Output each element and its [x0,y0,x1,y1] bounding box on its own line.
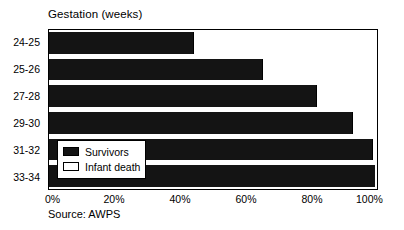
legend-swatch-icon [63,162,79,171]
y-axis-label: 25-26 [0,56,44,83]
x-axis: 0%20%40%60%80%100% [48,191,378,207]
x-axis-tick-label: 40% [169,193,190,205]
bar-stack [49,112,377,134]
legend-label: Survivors [85,146,129,158]
y-axis-category-labels: 24-2525-2627-2829-3031-3233-34 [0,29,44,190]
legend-label: Infant death [85,161,140,173]
x-axis-tick-label: 20% [103,193,124,205]
bar-stack [49,32,377,54]
bar-segment-survivors [49,59,262,81]
bar-segment-infant-death [352,112,377,134]
source-note: Source: AWPS [48,208,120,220]
bar-segment-infant-death [316,85,377,107]
y-axis-label: 24-25 [0,29,44,56]
chart-legend: SurvivorsInfant death [57,140,146,179]
y-axis-label: 31-32 [0,136,44,163]
chart-container: Gestation (weeks) 24-2525-2627-2829-3031… [0,0,404,230]
y-axis-label: 27-28 [0,83,44,110]
bar-stack [49,85,377,107]
bar-row [49,110,377,137]
bar-segment-infant-death [375,165,377,187]
x-axis-tick-label: 80% [301,193,322,205]
bar-row [49,57,377,84]
x-axis-tick-label: 0% [45,193,60,205]
x-axis-tick-label: 100% [356,193,383,205]
bar-segment-survivors [49,85,316,107]
chart-title: Gestation (weeks) [48,8,142,20]
bar-row [49,30,377,57]
y-axis-label: 29-30 [0,109,44,136]
bar-stack [49,59,377,81]
legend-item[interactable]: Infant death [63,159,141,174]
bar-segment-survivors [49,32,193,54]
y-axis-label: 33-34 [0,163,44,190]
legend-item[interactable]: Survivors [63,144,141,159]
x-axis-tick-label: 60% [235,193,256,205]
bar-segment-infant-death [262,59,377,81]
bar-row [49,83,377,110]
bar-segment-infant-death [193,32,377,54]
bar-segment-survivors [49,112,352,134]
bar-segment-infant-death [372,139,377,161]
legend-swatch-icon [63,147,79,156]
